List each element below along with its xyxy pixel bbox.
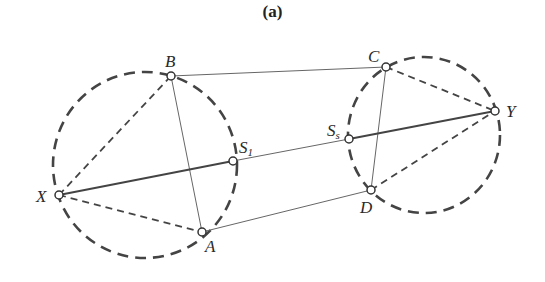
label-Ss-sub: s xyxy=(336,129,340,141)
geometry-diagram: B C Y Ss S1 X A D xyxy=(0,0,545,282)
point-X xyxy=(55,191,63,199)
dashed-CY xyxy=(386,67,495,111)
line-CD xyxy=(371,67,386,190)
point-D xyxy=(367,186,375,194)
point-Ss xyxy=(345,135,353,143)
point-B xyxy=(167,72,175,80)
label-Y: Y xyxy=(506,102,517,121)
line-AD xyxy=(202,190,371,232)
label-X: X xyxy=(35,187,47,206)
label-S1: S1 xyxy=(239,138,253,158)
point-Y xyxy=(491,107,499,115)
label-S1-sub: 1 xyxy=(248,146,254,158)
label-D: D xyxy=(359,198,373,217)
label-B: B xyxy=(165,52,176,71)
point-C xyxy=(382,63,390,71)
line-BC xyxy=(171,67,386,76)
label-Ss: Ss xyxy=(327,121,340,141)
line-BA xyxy=(171,76,202,232)
point-A xyxy=(198,228,206,236)
label-C: C xyxy=(368,47,380,66)
dashed-XA xyxy=(59,195,202,232)
label-A: A xyxy=(204,237,216,256)
point-S1 xyxy=(229,157,237,165)
